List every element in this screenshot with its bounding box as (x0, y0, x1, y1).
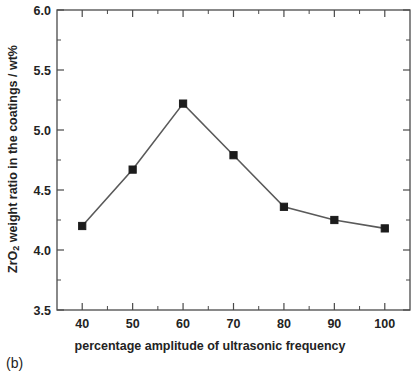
x-tick-label: 80 (277, 317, 291, 331)
plot-frame (57, 10, 410, 310)
y-axis-title-prefix: ZrO (6, 251, 20, 273)
data-point-marker (331, 216, 338, 223)
y-axis-tick-labels: 3.54.04.55.05.56.0 (34, 4, 51, 318)
x-axis-title: percentage amplitude of ultrasonic frequ… (0, 339, 420, 353)
data-point-marker (179, 100, 186, 107)
y-axis-title-subscript: 2 (11, 246, 21, 251)
x-tick-label: 60 (176, 317, 190, 331)
data-point-marker (79, 222, 86, 229)
x-axis-ticks (82, 10, 385, 310)
y-tick-label: 5.5 (34, 64, 51, 78)
y-tick-label: 6.0 (34, 4, 51, 18)
x-tick-label: 90 (327, 317, 341, 331)
data-point-marker (129, 166, 136, 173)
y-axis-title-suffix: weight ratio in the coatings / wt% (6, 45, 20, 246)
y-tick-label: 4.5 (34, 184, 51, 198)
figure-panel-b: 405060708090100 3.54.04.55.05.56.0 ZrO2 … (0, 0, 420, 378)
panel-caption: (b) (6, 355, 23, 371)
data-series-group (79, 100, 389, 232)
data-point-marker (230, 152, 237, 159)
y-axis-title-container: ZrO2 weight ratio in the coatings / wt% (0, 0, 26, 318)
x-tick-label: 70 (227, 317, 241, 331)
data-point-marker (381, 225, 388, 232)
y-axis-ticks (57, 10, 410, 310)
line-chart: 405060708090100 3.54.04.55.05.56.0 (0, 0, 420, 378)
x-tick-label: 100 (374, 317, 395, 331)
y-tick-label: 5.0 (34, 124, 51, 138)
x-tick-label: 50 (126, 317, 140, 331)
y-axis-title: ZrO2 weight ratio in the coatings / wt% (6, 45, 20, 273)
x-tick-label: 40 (75, 317, 89, 331)
y-tick-label: 4.0 (34, 244, 51, 258)
y-tick-label: 3.5 (34, 304, 51, 318)
data-point-marker (280, 203, 287, 210)
x-axis-tick-labels: 405060708090100 (75, 317, 395, 331)
data-line (82, 104, 385, 229)
